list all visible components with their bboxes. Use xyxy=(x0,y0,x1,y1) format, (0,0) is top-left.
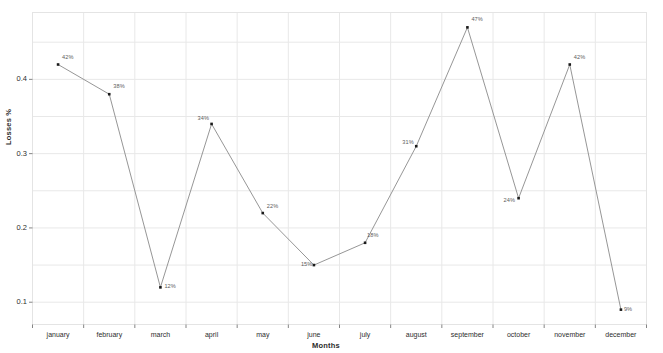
data-point-marker xyxy=(568,63,571,66)
x-tick-label: may xyxy=(256,331,269,338)
x-tick-label: march xyxy=(151,331,170,338)
data-point-marker xyxy=(313,264,316,267)
y-tick-label: 0.4 xyxy=(3,74,27,83)
x-tick-label: june xyxy=(307,331,320,338)
data-point-marker xyxy=(415,145,418,148)
grid-lines xyxy=(33,13,647,325)
line-chart: Losses % Months 0.10.20.30.4 januaryfebr… xyxy=(0,0,663,353)
y-tick-marks xyxy=(29,79,33,302)
plot-canvas xyxy=(0,0,663,353)
data-point-label: 42% xyxy=(62,54,74,60)
x-tick-label: july xyxy=(360,331,371,338)
data-point-label: 18% xyxy=(367,232,379,238)
y-axis-title: Losses % xyxy=(4,109,13,145)
x-tick-label: october xyxy=(507,331,530,338)
data-point-marker xyxy=(57,63,60,66)
x-tick-label: february xyxy=(96,331,122,338)
data-point-marker xyxy=(620,308,623,311)
data-point-marker xyxy=(261,212,264,215)
x-axis-title: Months xyxy=(312,341,340,350)
x-tick-marks xyxy=(33,325,647,329)
x-tick-label: april xyxy=(205,331,218,338)
x-tick-label: december xyxy=(605,331,636,338)
x-tick-label: september xyxy=(451,331,484,338)
data-point-label: 15% xyxy=(301,261,313,267)
data-point-label: 34% xyxy=(198,115,210,121)
data-point-label: 9% xyxy=(624,306,632,312)
y-tick-label: 0.2 xyxy=(3,223,27,232)
data-point-label: 24% xyxy=(504,197,516,203)
y-tick-label: 0.3 xyxy=(3,149,27,158)
data-point-label: 12% xyxy=(164,283,176,289)
y-tick-label: 0.1 xyxy=(3,297,27,306)
x-tick-label: november xyxy=(554,331,585,338)
data-point-marker xyxy=(159,286,162,289)
data-point-label: 42% xyxy=(574,54,586,60)
data-point-marker xyxy=(466,26,469,29)
data-point-marker xyxy=(108,93,111,96)
data-point-marker xyxy=(364,241,367,244)
data-point-label: 47% xyxy=(471,16,483,22)
data-point-label: 31% xyxy=(402,139,414,145)
x-tick-label: january xyxy=(47,331,70,338)
data-point-marker xyxy=(517,197,520,200)
data-point-marker xyxy=(210,123,213,126)
x-tick-label: august xyxy=(406,331,427,338)
data-point-label: 22% xyxy=(267,203,279,209)
data-point-label: 38% xyxy=(113,83,125,89)
